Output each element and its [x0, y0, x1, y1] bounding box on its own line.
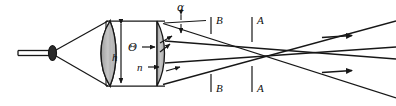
label-theta: Θ	[128, 41, 137, 54]
label-alpha: α	[177, 1, 185, 14]
emitter-aperture-icon	[49, 46, 57, 61]
diagram-canvas: h Θ n α B	[0, 0, 396, 106]
label-b-bottom: B	[216, 82, 223, 94]
label-n: n	[137, 61, 143, 73]
label-b-top: B	[216, 14, 223, 26]
label-a-bottom: A	[256, 82, 264, 94]
label-a-top: A	[256, 14, 264, 26]
optical-ray-diagram: h Θ n α B	[0, 0, 396, 106]
label-h: h	[112, 51, 118, 63]
figure-background	[0, 0, 396, 106]
